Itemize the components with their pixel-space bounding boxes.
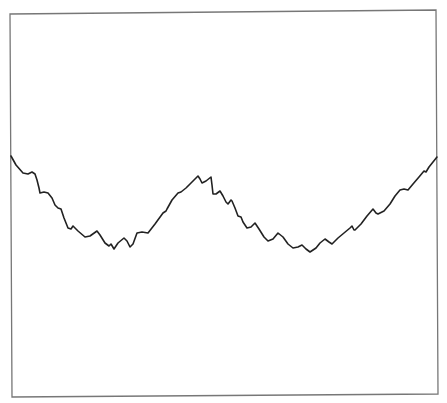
plot-frame — [10, 10, 438, 397]
line-chart — [0, 0, 447, 403]
data-line — [11, 156, 437, 252]
